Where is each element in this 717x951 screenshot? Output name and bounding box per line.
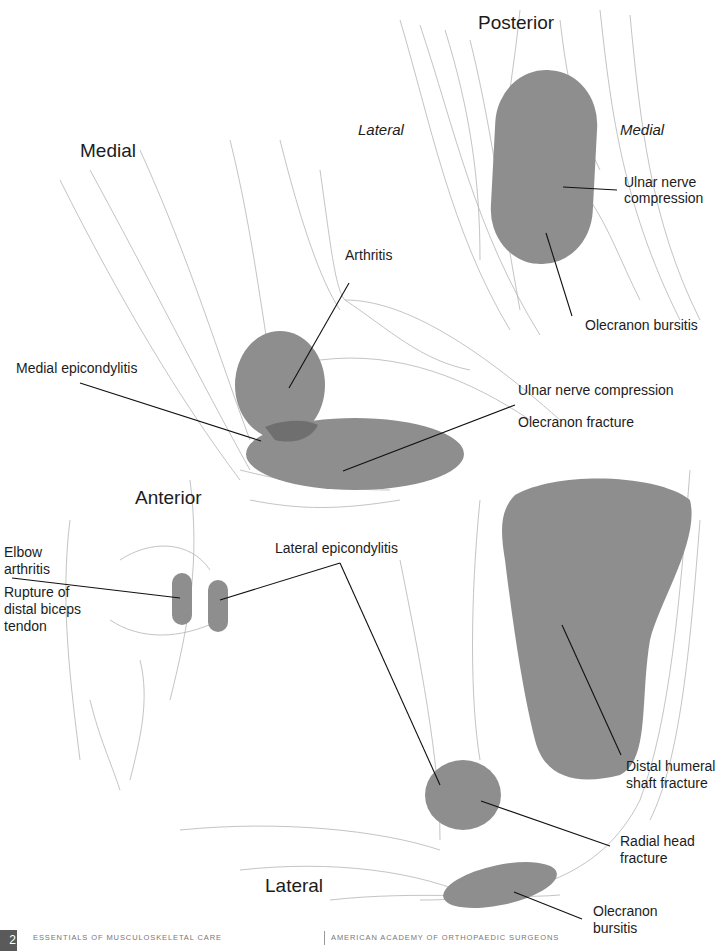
label-olecranon-fracture: Olecranon fracture [518,414,634,431]
lateral-side-label: Lateral [358,121,404,138]
label-olecranon-bursitis-lateral-1: Olecranon [593,903,658,920]
biceps-right-region [208,580,228,632]
anterior-view-title: Anterior [135,487,202,509]
medial-side-label: Medial [620,121,664,138]
radial-head-region [425,760,501,830]
label-distal-humeral-1: Distal humeral [626,758,715,775]
footer-publisher: American Academy of Orthopaedic Surgeons [331,933,559,942]
olecranon-bursitis-lat-region [439,853,561,916]
lateral-view-title: Lateral [265,875,323,897]
label-ulnar-nerve-medial: Ulnar nerve compression [518,382,674,399]
label-elbow-arthritis-1: Elbow [4,544,42,561]
page-number: 2 [0,930,17,951]
pathology-regions [172,67,692,916]
label-lateral-epicondylitis: Lateral epicondylitis [275,540,398,557]
label-elbow-arthritis-2: arthritis [4,561,50,578]
label-radial-head-2: fracture [620,850,667,867]
label-arthritis: Arthritis [345,247,392,264]
footer-book-title: Essentials of Musculoskeletal Care [33,933,222,942]
posterior-view-title: Posterior [478,12,554,34]
distal-humeral-region [502,479,692,780]
label-ulnar-nerve-posterior-2: compression [624,190,703,207]
label-distal-humeral-2: shaft fracture [626,775,708,792]
label-medial-epicondylitis: Medial epicondylitis [16,360,137,377]
label-ulnar-nerve-posterior-1: Ulnar nerve [624,174,696,191]
footer-divider [324,931,325,945]
label-olecranon-bursitis-posterior: Olecranon bursitis [585,317,698,334]
biceps-left-region [172,573,192,625]
label-biceps-rupture-2: distal biceps [4,601,81,618]
medial-view-title: Medial [80,140,136,162]
page-footer: 2 Essentials of Musculoskeletal Care Ame… [0,928,717,951]
label-biceps-rupture-3: tendon [4,618,47,635]
posterior-region [488,67,600,266]
label-biceps-rupture-1: Rupture of [4,584,69,601]
label-radial-head-1: Radial head [620,833,695,850]
